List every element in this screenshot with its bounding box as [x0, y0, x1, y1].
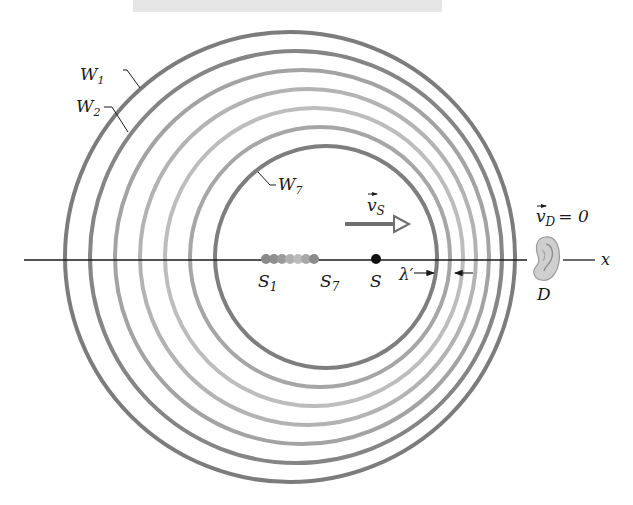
source-dot-s — [371, 254, 381, 264]
leader-w7 — [258, 172, 276, 185]
vs-arrow-head — [394, 216, 409, 232]
wavefront-w7 — [215, 146, 437, 368]
detector: vD= 0 D — [534, 206, 589, 304]
label-w1: W1 — [80, 64, 104, 87]
doppler-diagram: x S1 S7 S W1 W2 W7 vS — [0, 0, 633, 505]
ear-icon — [534, 237, 560, 281]
label-detector: D — [536, 284, 551, 304]
x-axis-label: x — [601, 250, 610, 269]
leader-w1 — [123, 70, 140, 88]
source-velocity: vS — [345, 194, 409, 232]
label-vd: vD= 0 — [536, 206, 589, 229]
label-vs: vS — [367, 195, 385, 218]
source-positions — [261, 254, 381, 264]
vs-arrow-shaft — [345, 222, 395, 226]
source-dot-s7 — [309, 254, 319, 264]
label-s1: S1 — [258, 271, 277, 294]
doppler-figure: x S1 S7 S W1 W2 W7 vS — [0, 0, 633, 505]
label-w7: W7 — [278, 174, 302, 197]
wavefront-w6 — [190, 127, 450, 387]
label-s7: S7 — [320, 271, 340, 294]
label-lambda: λ′ — [398, 264, 414, 284]
top-gray-bar — [133, 0, 442, 12]
label-w2: W2 — [76, 96, 100, 119]
label-s: S — [370, 271, 382, 291]
